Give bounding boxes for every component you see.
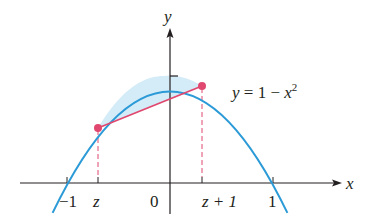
point-z — [94, 124, 102, 132]
tick-label-z-plus-1: z + 1 — [201, 192, 237, 211]
tick-label-neg1: −1 — [59, 192, 77, 211]
y-axis-label: y — [162, 7, 172, 26]
x-axis-label: x — [345, 174, 354, 193]
tick-label-0: 0 — [150, 192, 159, 211]
tick-label-1: 1 — [268, 192, 277, 211]
tick-label-z: z — [92, 192, 100, 211]
equation-label: y = 1 − x2 — [230, 81, 297, 102]
plot-canvas: y x −1 z 0 z + 1 1 y = 1 − x2 — [0, 0, 380, 221]
point-z-plus-1 — [198, 82, 206, 90]
